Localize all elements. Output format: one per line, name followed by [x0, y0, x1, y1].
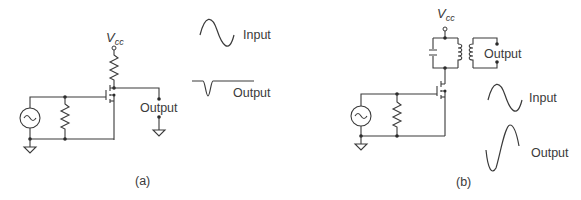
input-waveform-label-b: Input	[529, 91, 557, 105]
gate-resistor-a	[61, 97, 69, 139]
secondary-coil-b	[469, 38, 473, 68]
vcc-label-b: Vcc	[437, 6, 455, 23]
ground-icon-b	[355, 144, 367, 150]
caption-a: (a)	[135, 174, 150, 188]
ground-icon-a	[24, 147, 36, 153]
panel-b: Vcc Output	[351, 6, 569, 189]
vcc-terminal-a	[112, 46, 116, 50]
mosfet-b	[437, 81, 447, 136]
output-terminal-label-a: Output	[140, 101, 178, 115]
input-waveform-a	[200, 19, 234, 46]
gate-resistor-b	[393, 94, 401, 136]
output-waveform-label-b: Output	[531, 146, 569, 160]
output-terminal-top-b	[495, 42, 499, 46]
tank-top-node-b	[443, 36, 447, 40]
primary-coil-b	[458, 44, 462, 62]
bottom-rail-a	[30, 128, 114, 139]
ground-icon-output-a	[153, 130, 165, 136]
input-waveform-label-a: Input	[243, 28, 271, 42]
tank-capacitor-b	[429, 50, 437, 55]
output-waveform-b	[486, 125, 519, 171]
tank-wires-b	[433, 38, 458, 68]
circuit-figure: Vcc Output	[0, 0, 581, 200]
vcc-label-a: Vcc	[106, 30, 124, 47]
bottom-rail-b	[361, 126, 445, 136]
mosfet-a	[106, 85, 116, 140]
caption-b: (b)	[456, 175, 471, 189]
gate-wire-b	[361, 94, 437, 106]
vcc-terminal-b	[443, 27, 447, 31]
output-waveform-label-a: Output	[233, 86, 271, 100]
panel-a: Vcc Output	[20, 19, 271, 188]
rail-node-b	[395, 134, 399, 138]
output-terminal-label-b: Output	[484, 47, 522, 61]
rail-node-a	[63, 137, 67, 141]
drain-resistor-a	[110, 50, 118, 88]
input-waveform-b	[488, 84, 522, 111]
output-wire-a	[114, 88, 159, 99]
